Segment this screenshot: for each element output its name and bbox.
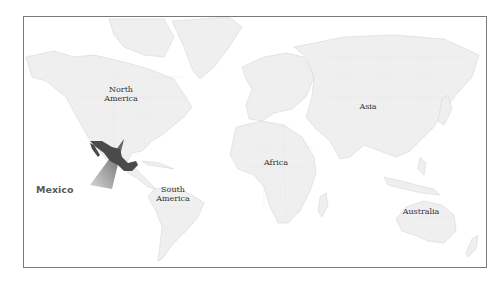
landmass-new-zealand	[466, 235, 478, 257]
world-map: North America South America Africa Asia …	[23, 16, 487, 268]
label-america: America	[94, 94, 148, 103]
landmass-madagascar	[318, 193, 328, 217]
landmass-indonesia	[384, 177, 440, 195]
landmass-africa	[230, 121, 316, 223]
label-north-america: North America	[94, 85, 148, 103]
label-south-america: South America	[149, 185, 197, 203]
landmass-greenland	[172, 17, 242, 79]
landmass-caribbean	[142, 161, 174, 169]
label-america-south: America	[149, 194, 197, 203]
landmass-europe	[242, 53, 314, 121]
landmass-arctic-islands	[109, 19, 174, 57]
label-australia: Australia	[396, 207, 446, 216]
label-south: South	[149, 185, 197, 194]
label-asia: Asia	[350, 102, 386, 111]
mexico-callout-label: Mexico	[36, 184, 73, 195]
label-north: North	[94, 85, 148, 94]
landmass-philippines	[418, 157, 426, 175]
world-map-graphic	[24, 17, 486, 267]
label-africa: Africa	[256, 158, 296, 167]
